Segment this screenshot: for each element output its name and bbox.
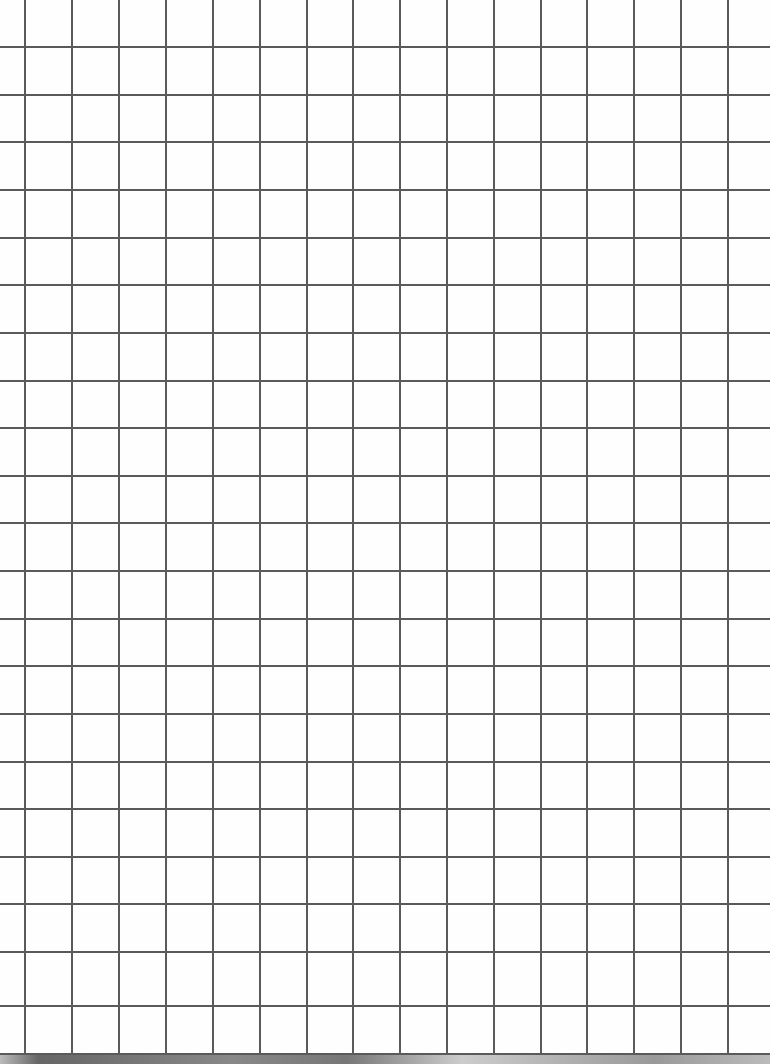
grid-line-horizontal	[0, 427, 770, 429]
grid-line-vertical	[212, 0, 214, 1056]
grid-line-horizontal	[0, 522, 770, 524]
grid-line-horizontal	[0, 903, 770, 905]
grid-line-horizontal	[0, 94, 770, 96]
grid-line-vertical	[259, 0, 261, 1056]
grid-line-vertical	[24, 0, 26, 1056]
grid-line-horizontal	[0, 570, 770, 572]
grid-line-vertical	[71, 0, 73, 1056]
grid-line-vertical	[586, 0, 588, 1056]
grid-line-horizontal	[0, 475, 770, 477]
bottom-edge-shadow	[0, 1055, 770, 1064]
grid-line-horizontal	[0, 761, 770, 763]
grid-line-vertical	[118, 0, 120, 1056]
grid-line-vertical	[399, 0, 401, 1056]
grid-line-vertical	[493, 0, 495, 1056]
grid-line-vertical	[352, 0, 354, 1056]
grid-line-horizontal	[0, 332, 770, 334]
grid-line-horizontal	[0, 284, 770, 286]
grid-line-horizontal	[0, 808, 770, 810]
grid-line-horizontal	[0, 237, 770, 239]
grid-line-vertical	[165, 0, 167, 1056]
grid-line-horizontal	[0, 618, 770, 620]
grid-line-vertical	[446, 0, 448, 1056]
grid-line-vertical	[633, 0, 635, 1056]
grid-line-horizontal	[0, 141, 770, 143]
grid-line-vertical	[680, 0, 682, 1056]
grid-line-horizontal	[0, 951, 770, 953]
grid-line-horizontal	[0, 665, 770, 667]
grid-line-vertical	[727, 0, 729, 1056]
grid-line-vertical	[306, 0, 308, 1056]
grid-line-horizontal	[0, 713, 770, 715]
grid-line-horizontal	[0, 856, 770, 858]
grid-line-vertical	[540, 0, 542, 1056]
grid-line-horizontal	[0, 1005, 770, 1007]
grid-line-horizontal	[0, 46, 770, 48]
grid-line-horizontal	[0, 380, 770, 382]
graph-paper-sheet	[0, 0, 770, 1064]
grid-line-horizontal	[0, 189, 770, 191]
